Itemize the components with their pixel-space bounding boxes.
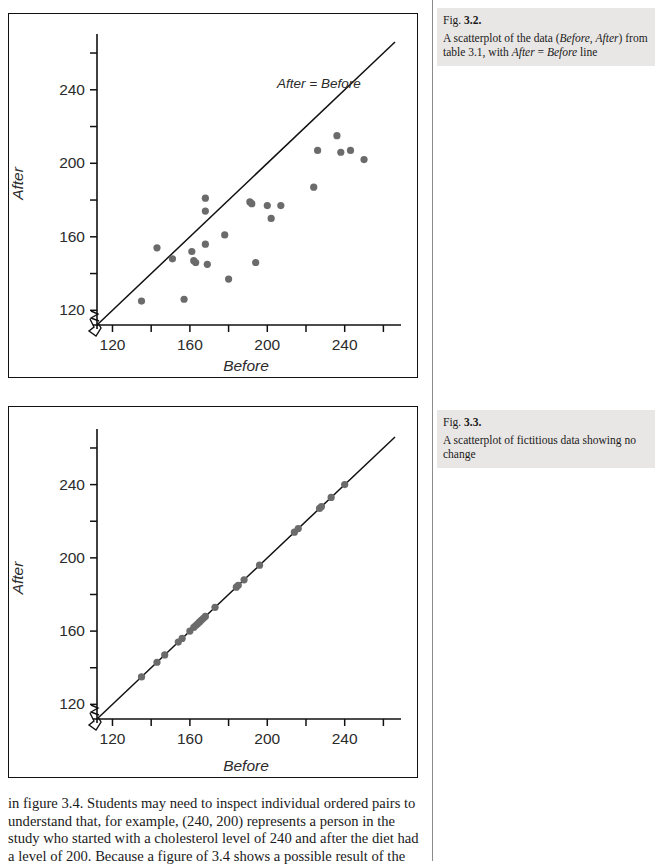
data-point [240, 576, 247, 583]
data-point [341, 481, 348, 488]
scatterplot-3-2: 120160200240120160200240After = BeforeBe… [9, 14, 417, 377]
data-point [256, 562, 263, 569]
caption-em-after: After [596, 32, 619, 44]
caption-text-seg: = [535, 46, 547, 58]
data-point [328, 494, 335, 501]
data-point [268, 215, 275, 222]
y-axis-title: After [9, 561, 26, 596]
data-point [180, 296, 187, 303]
caption-em-after2: After [512, 46, 535, 58]
figure-3-2-caption: Fig. 3.2. A scatterplot of the data (Bef… [437, 8, 655, 66]
caption-text-seg: A scatterplot of the data ( [443, 32, 560, 44]
data-point [221, 231, 228, 238]
scatterplot-3-3: 120160200240120160200240BeforeAfter [9, 407, 417, 777]
figure-3-3-caption-body: A scatterplot of fictitious data showing… [443, 434, 649, 461]
x-tick-label: 200 [254, 336, 280, 353]
data-point [202, 195, 209, 202]
y-tick-label: 160 [59, 622, 85, 639]
caption-text-seg: line [577, 46, 597, 58]
data-point [235, 582, 242, 589]
data-point [347, 147, 354, 154]
data-point [192, 259, 199, 266]
data-point [225, 275, 232, 282]
figure-3-2-panel: 120160200240120160200240After = BeforeBe… [8, 13, 418, 378]
y-tick-label: 120 [59, 695, 85, 712]
data-point [264, 202, 271, 209]
x-tick-label: 160 [177, 336, 203, 353]
data-point [169, 255, 176, 262]
x-tick-label: 120 [100, 730, 126, 747]
data-point [202, 241, 209, 248]
data-point [314, 147, 321, 154]
data-point [252, 259, 259, 266]
data-point [248, 200, 255, 207]
data-point [337, 149, 344, 156]
data-point [318, 503, 325, 510]
figure-3-3-caption: Fig. 3.3. A scatterplot of fictitious da… [437, 410, 655, 468]
data-point [138, 298, 145, 305]
body-line-2: understand that, for example, (240, 200)… [8, 813, 430, 831]
data-point [202, 207, 209, 214]
data-point [188, 248, 195, 255]
data-point [153, 659, 160, 666]
x-tick-label: 200 [254, 730, 280, 747]
caption-em-before2: Before [547, 46, 577, 58]
body-line-4: a level of 200. Because a figure of 3.4 … [8, 848, 430, 865]
chart-canvas: 120160200240120160200240BeforeAfter [9, 407, 417, 777]
chart-canvas: 120160200240120160200240After = BeforeBe… [9, 14, 417, 377]
data-point [295, 525, 302, 532]
figure-3-3-panel: 120160200240120160200240BeforeAfter [8, 406, 418, 778]
y-axis-title: After [9, 166, 26, 201]
x-tick-label: 160 [177, 730, 203, 747]
y-tick-label: 160 [59, 228, 85, 245]
data-point [333, 132, 340, 139]
data-point [310, 184, 317, 191]
column-divider-rule [432, 0, 433, 861]
x-axis-title: Before [223, 357, 269, 374]
data-point [153, 244, 160, 251]
data-point [204, 261, 211, 268]
data-point [360, 156, 367, 163]
y-tick-label: 240 [59, 81, 85, 98]
figure-3-3-caption-prefix: Fig. [443, 416, 464, 428]
caption-em-before: Before [560, 32, 590, 44]
y-tick-label: 200 [59, 549, 85, 566]
figure-3-2-caption-body: A scatterplot of the data (Before, After… [443, 32, 649, 59]
y-tick-label: 200 [59, 154, 85, 171]
figure-3-3-caption-number: 3.3. [464, 416, 481, 428]
data-point [161, 651, 168, 658]
data-point [179, 635, 186, 642]
x-tick-label: 120 [100, 336, 126, 353]
data-point [202, 613, 209, 620]
y-tick-label: 240 [59, 476, 85, 493]
figure-3-3-caption-heading: Fig. 3.3. [443, 415, 649, 430]
figure-3-2-caption-heading: Fig. 3.2. [443, 13, 649, 28]
x-axis-title: Before [223, 757, 269, 774]
data-point [211, 604, 218, 611]
data-point [277, 202, 284, 209]
body-line-3: study who started with a cholesterol lev… [8, 830, 430, 848]
x-tick-label: 240 [332, 336, 358, 353]
body-line-1: in figure 3.4. Students may need to insp… [8, 795, 430, 813]
y-tick-label: 120 [59, 301, 85, 318]
body-paragraph: in figure 3.4. Students may need to insp… [8, 795, 430, 865]
x-tick-label: 240 [332, 730, 358, 747]
figure-3-2-caption-number: 3.2. [464, 14, 481, 26]
figure-3-2-caption-prefix: Fig. [443, 14, 464, 26]
data-point [138, 673, 145, 680]
reference-line-label: After = Before [276, 76, 361, 91]
